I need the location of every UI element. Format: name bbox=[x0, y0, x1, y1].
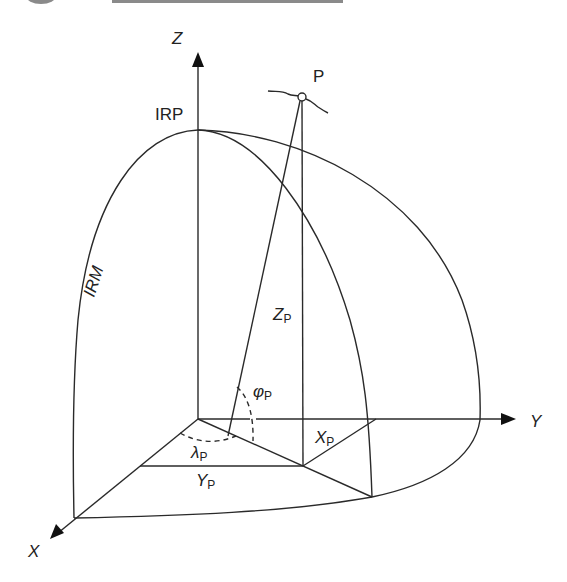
y-axis-label: Y bbox=[530, 412, 543, 431]
lambda-angle-arc bbox=[180, 433, 236, 441]
irp-label: IRP bbox=[155, 105, 183, 124]
phi-label: φP bbox=[253, 382, 272, 403]
equator-arc bbox=[74, 420, 480, 518]
irm-arc bbox=[73, 130, 198, 518]
yp-label: YP bbox=[196, 471, 215, 492]
header-bar-fragment bbox=[112, 0, 343, 3]
irm-label: IRM bbox=[80, 263, 108, 299]
header-circle-fragment bbox=[26, 0, 56, 4]
xp-line bbox=[303, 419, 376, 466]
xp-label: XP bbox=[314, 428, 334, 449]
surface-squiggle-right bbox=[306, 99, 328, 113]
point-p-marker-icon bbox=[298, 93, 306, 101]
lambda-label: λP bbox=[190, 443, 207, 464]
surface-squiggle bbox=[268, 91, 299, 96]
y-axis-arrowhead-icon bbox=[501, 413, 516, 425]
point-p-label: P bbox=[313, 67, 324, 86]
z-axis-arrowhead-icon bbox=[192, 52, 204, 67]
zp-line bbox=[302, 101, 303, 466]
phi-angle-arc bbox=[237, 387, 253, 441]
zp-label: ZP bbox=[272, 305, 291, 326]
projection-diagonal bbox=[198, 419, 372, 497]
z-axis-label: Z bbox=[171, 29, 183, 48]
x-axis-arrowhead-icon bbox=[50, 524, 64, 539]
coordinate-diagram: Z Y X P IRP IRM ZP XP YP φP λP bbox=[0, 0, 567, 582]
x-axis-label: X bbox=[27, 542, 40, 561]
x-axis bbox=[58, 419, 198, 533]
